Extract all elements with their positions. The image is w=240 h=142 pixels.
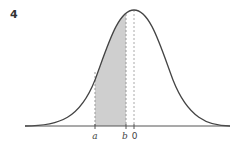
- label-zero: 0: [132, 131, 138, 141]
- label-b: b: [122, 131, 128, 141]
- bell-curve: [25, 10, 230, 126]
- label-a: a: [92, 131, 97, 141]
- normal-curve-diagram: a b 0: [0, 0, 240, 142]
